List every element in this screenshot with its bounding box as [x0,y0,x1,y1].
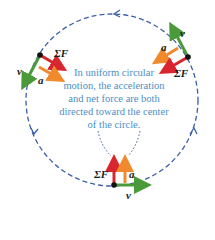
net-force-label: ΣF [93,168,109,180]
particle-bottom: ΣF a v [93,160,146,201]
net-force-label: ΣF [53,47,69,59]
direction-arrow-right-icon [190,128,197,134]
acceleration-label: a [129,168,135,180]
caption-pointers [98,131,140,156]
acceleration-label: a [38,74,44,86]
particle-dot [185,54,191,60]
velocity-label: v [126,189,131,201]
particle-dot [37,52,43,58]
particle-dot [111,182,117,188]
net-force-label: ΣF [173,67,189,79]
acceleration-label: a [161,41,167,53]
velocity-label: v [17,65,22,77]
velocity-label: v [180,27,185,39]
caption-text: In uniform circular motion, the accelera… [58,66,170,131]
